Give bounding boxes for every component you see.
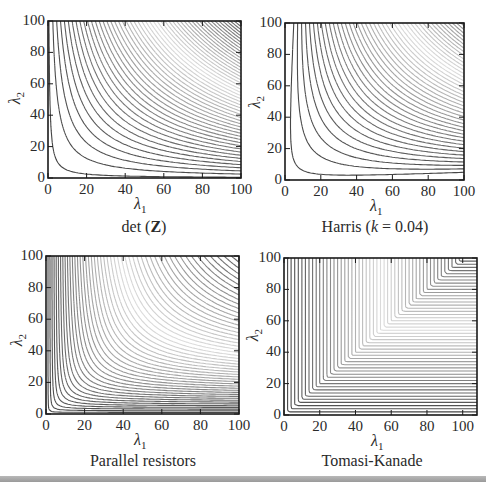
contour-line (373, 258, 477, 337)
y-tick-label: 20 (266, 376, 281, 391)
contour-line (302, 258, 477, 399)
y-tick-label: 60 (266, 313, 281, 328)
x-tick-label: 80 (419, 419, 434, 434)
y-tick-label: 40 (266, 344, 281, 359)
contour-line (445, 258, 477, 274)
chart-caption: Tomasi-Kanade (272, 452, 472, 470)
y-tick-label: 100 (259, 250, 282, 265)
contour-line (331, 258, 478, 374)
x-axis-label: λ1 (371, 432, 383, 452)
contour-line (423, 258, 477, 293)
x-tick-label: 60 (384, 419, 399, 434)
x-tick-label: 40 (348, 419, 363, 434)
bottom-divider-bar (0, 476, 486, 482)
y-tick-label: 0 (274, 407, 282, 422)
contour-plot-tomasi (0, 0, 486, 482)
x-tick-label: 20 (312, 419, 327, 434)
contour-line (338, 258, 477, 368)
x-tick-label: 0 (280, 419, 288, 434)
y-axis-label: λ2 (244, 329, 264, 341)
contour-line (352, 258, 477, 355)
x-tick-label: 100 (451, 419, 474, 434)
chart-tomasi-kanade: λ2 λ1 Tomasi-Kanade 02040608010002040608… (0, 0, 486, 482)
y-tick-label: 80 (266, 281, 281, 296)
